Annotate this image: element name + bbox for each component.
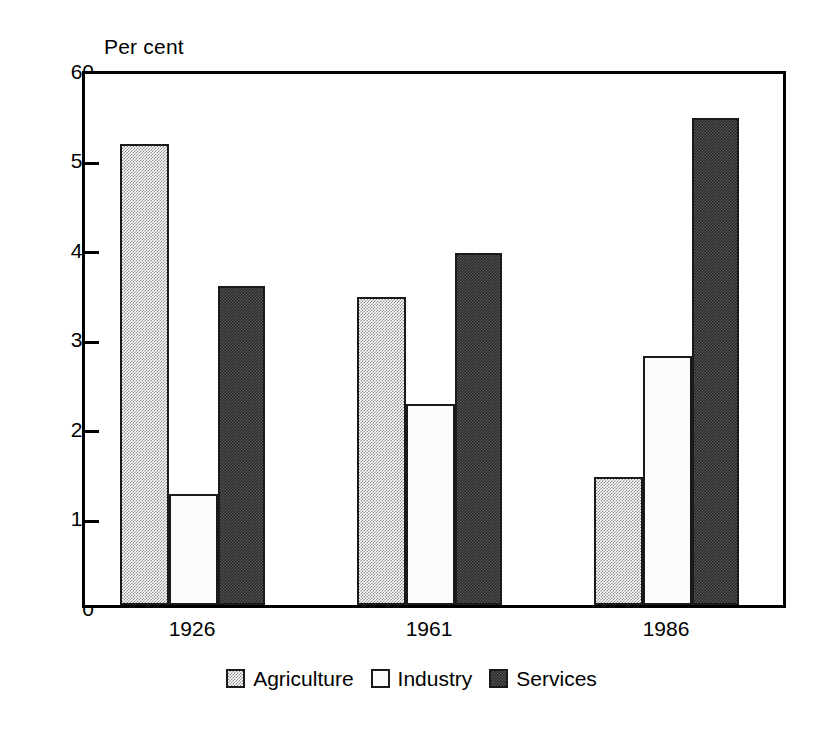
y-tick-mark-50 xyxy=(85,162,99,165)
bar-1961-industry xyxy=(406,404,455,605)
legend-item-agriculture: Agriculture xyxy=(226,668,353,689)
legend-swatch-services-icon xyxy=(489,669,508,688)
y-tick-mark-10 xyxy=(85,520,99,523)
bar-1986-industry xyxy=(643,356,692,605)
legend-label-agriculture: Agriculture xyxy=(253,668,353,689)
plot-area xyxy=(82,71,786,608)
legend-item-industry: Industry xyxy=(371,668,473,689)
y-tick-mark-20 xyxy=(85,430,99,433)
bar-1986-services xyxy=(692,118,739,605)
chart-page: Per cent 60 50 40 30 20 10 0 xyxy=(0,0,823,739)
legend-swatch-agriculture-icon xyxy=(226,669,245,688)
legend-label-industry: Industry xyxy=(398,668,473,689)
bar-1926-services xyxy=(218,286,265,605)
y-tick-mark-40 xyxy=(85,251,99,254)
y-axis-caption: Per cent xyxy=(104,36,184,57)
chart-legend: Agriculture Industry Services xyxy=(0,668,823,689)
bar-1961-agriculture xyxy=(357,297,406,605)
x-tick-label-1986: 1986 xyxy=(621,618,711,639)
x-tick-label-1926: 1926 xyxy=(147,618,237,639)
bar-1926-agriculture xyxy=(120,144,169,605)
x-tick-label-1961: 1961 xyxy=(384,618,474,639)
bar-1926-industry xyxy=(169,494,218,605)
legend-item-services: Services xyxy=(489,668,597,689)
legend-label-services: Services xyxy=(516,668,597,689)
plot-inner xyxy=(85,74,783,605)
legend-swatch-industry-icon xyxy=(371,669,390,688)
bar-1961-services xyxy=(455,253,502,605)
bar-1986-agriculture xyxy=(594,477,643,605)
y-tick-mark-30 xyxy=(85,341,99,344)
